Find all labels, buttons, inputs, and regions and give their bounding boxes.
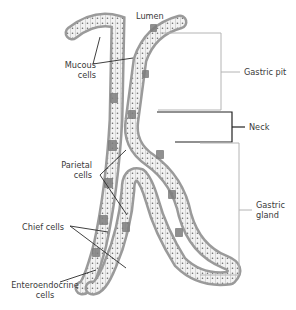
lumen-label: Lumen xyxy=(136,11,164,21)
enteroendocrine-cells-label: Enteroendocrine cells xyxy=(10,280,80,300)
chief-cells-label: Chief cells xyxy=(22,222,64,232)
parietal-cells-label-line2: cells xyxy=(56,170,92,180)
gastric-gland-diagram xyxy=(0,0,296,310)
neck-bracket xyxy=(157,112,245,142)
parietal-cells-label: Parietal cells xyxy=(56,160,92,180)
parietal-cells-label-line1: Parietal xyxy=(56,160,92,170)
mucous-cells-label-line2: cells xyxy=(60,70,96,80)
gastric-pit-bracket xyxy=(158,33,240,110)
gastric-gland-label: Gastric gland xyxy=(256,200,285,220)
enteroendocrine-cells-label-line1: Enteroendocrine xyxy=(10,280,80,290)
gastric-pit-label: Gastric pit xyxy=(244,67,286,77)
mucous-cells-label: Mucous cells xyxy=(60,60,96,80)
gastric-gland-label-line2: gland xyxy=(256,210,285,220)
mucous-cells-label-line1: Mucous xyxy=(60,60,96,70)
neck-label: Neck xyxy=(249,122,269,132)
gastric-gland-label-line1: Gastric xyxy=(256,200,285,210)
enteroendocrine-cells-label-line2: cells xyxy=(10,290,80,300)
